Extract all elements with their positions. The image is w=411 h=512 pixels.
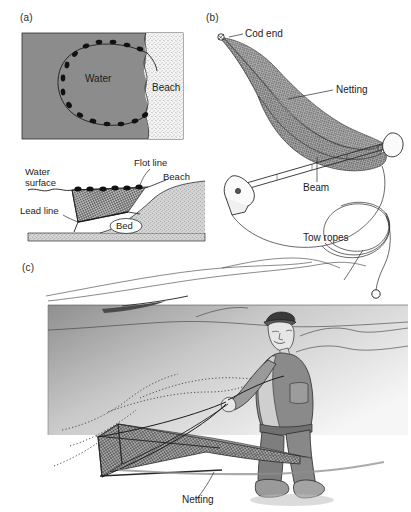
panel-c-netting-label: Netting — [182, 494, 214, 505]
figure-root: (a) — [0, 0, 411, 512]
panel-c-graphics — [0, 0, 411, 512]
